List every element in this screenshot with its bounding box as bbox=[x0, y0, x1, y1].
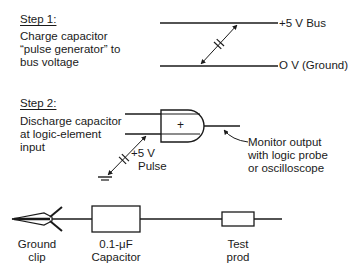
step2-title: Step 2: bbox=[20, 97, 56, 110]
plus5v-bus-label: +5 V Bus bbox=[279, 17, 326, 30]
gate-plus-symbol: + bbox=[177, 119, 184, 132]
monitor-line-1: Monitor output bbox=[248, 136, 322, 149]
test-prod-label-1: Test bbox=[218, 238, 258, 251]
capacitor-lead bbox=[201, 25, 237, 64]
test-prod-label-2: prod bbox=[218, 251, 258, 264]
step1-title: Step 1: bbox=[20, 13, 56, 26]
monitor-line-2: with logic probe bbox=[248, 149, 328, 162]
step2-line-2: at logic-element bbox=[20, 128, 101, 141]
capacitor-label-2: Capacitor bbox=[86, 251, 146, 264]
pulse-label: Pulse bbox=[138, 160, 167, 173]
capacitor-label-1: 0.1-μF bbox=[86, 238, 146, 251]
step1-line-3: bus voltage bbox=[20, 56, 79, 69]
step2-line-3: input bbox=[20, 141, 45, 154]
pulse-voltage-label: +5 V bbox=[131, 147, 155, 160]
monitor-line-3: or oscilloscope bbox=[248, 162, 324, 175]
ground-clip-label-1: Ground bbox=[12, 238, 62, 251]
ground-clip-label-2: clip bbox=[12, 251, 62, 264]
probe-assembly bbox=[12, 206, 282, 232]
capacitor-body-icon bbox=[92, 206, 140, 232]
step1-line-2: “pulse generator” to bbox=[20, 43, 120, 56]
step2-line-1: Discharge capacitor bbox=[20, 115, 122, 128]
step1-line-1: Charge capacitor bbox=[20, 30, 108, 43]
monitor-leader-line bbox=[224, 130, 248, 142]
test-prod-icon bbox=[222, 212, 254, 226]
ground-symbol-icon bbox=[98, 177, 112, 180]
ground-bus-label: O V (Ground) bbox=[279, 59, 348, 72]
step1-bus-diagram bbox=[160, 23, 278, 66]
